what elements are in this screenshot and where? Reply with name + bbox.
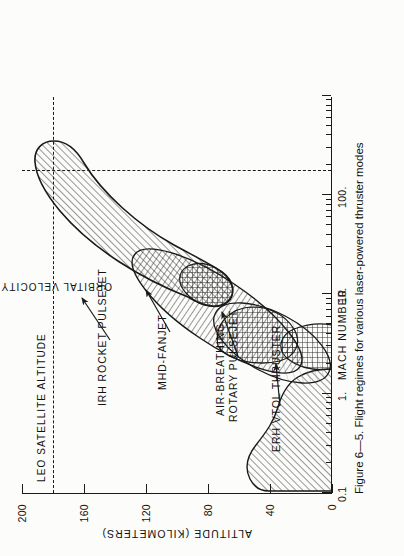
figure-caption-text: Flight regimes for various laser-powered… [353,142,365,427]
callout-air-breathing-rotary-pulsejet-line2: ROTARY PULSEJET [227,310,239,422]
xtick-minor [326,125,331,126]
xtick-minor [326,298,331,299]
xtick-minor [326,345,331,346]
xtick-minor [326,445,331,446]
callout-mhd-fanjet: MHD-FANJET [156,315,168,391]
xticklabel-0: 0.1 [336,487,348,503]
xtick-minor [326,423,331,424]
xtick-minor [326,199,331,200]
ytick-80 [208,484,209,493]
xtick-minor [326,316,331,317]
leo-satellite-altitude-label: LEO SATELLITE ALTITUDE [36,333,47,482]
figure-caption: Figure 6—5. Flight regimes for various l… [352,102,366,494]
xtick-minor [326,333,331,334]
xtick-minor [326,397,331,398]
xtick-1 [322,393,331,394]
ytick-200 [22,484,23,493]
ytick-160 [84,484,85,493]
callout-erh-vtol-thruster: ERH VTOL THRUSTER [270,325,282,452]
xtick-minor [326,117,331,118]
xtick-minor [326,216,331,217]
xticklabel-3: 100. [336,186,348,208]
xtick-minor [326,415,331,416]
xtick-minor [326,324,331,325]
xtick-minor [326,462,331,463]
ytick-120 [146,484,147,493]
figure-caption-number: Figure 6—5. [353,431,365,494]
figure-page: 0.1 1. 10. 100. MACH NUMBER 0 40 80 120 … [0,0,404,556]
xtick-minor [326,204,331,205]
chart-plot-area [22,97,332,494]
yticklabel-200: 200 [16,504,28,536]
xaxis-title: MACH NUMBER [336,289,348,380]
region-erh-vtol-thruster [247,369,331,491]
leo-satellite-altitude-line [53,97,54,493]
ytick-40 [270,484,271,493]
xtick-minor [326,432,331,433]
rotated-figure-canvas: 0.1 1. 10. 100. MACH NUMBER 0 40 80 120 … [0,0,404,556]
callout-air-breathing-rotary-pulsejet-line1: AIR-BREATHING [214,323,226,416]
xtick-0.1 [322,492,331,493]
xtick-minor [326,303,331,304]
xtick-minor [326,105,331,106]
callout-irh-rocket-pulsejet: IRH RÖCKET PULSEJET [96,268,108,406]
yticklabel-160: 160 [78,504,90,536]
xtick-minor [326,402,331,403]
chart-plot-interior [22,97,331,493]
xtick-minor [326,164,331,165]
xtick-minor [326,100,331,101]
yticklabel-40: 40 [264,504,276,536]
xtick-minor [326,135,331,136]
xtick-minor [326,408,331,409]
xtick-minor [326,234,331,235]
xtick-minor [326,110,331,111]
xtick-minor [322,96,331,97]
xtick-minor [326,224,331,225]
orbital-velocity-line [22,170,331,171]
yticklabel-0: 0 [326,504,338,536]
yaxis-title: ALTITUDE (KILOMETERS) [101,528,252,540]
xtick-10 [322,294,331,295]
xtick-minor [326,210,331,211]
xtick-minor [326,246,331,247]
xtick-minor [326,309,331,310]
xticklabel-1: 1. [336,392,348,401]
xtick-minor [326,147,331,148]
xtick-100 [322,194,331,195]
flight-regime-regions [22,97,331,493]
xtick-minor [326,363,331,364]
xtick-minor [326,264,331,265]
ytick-0 [332,484,333,493]
